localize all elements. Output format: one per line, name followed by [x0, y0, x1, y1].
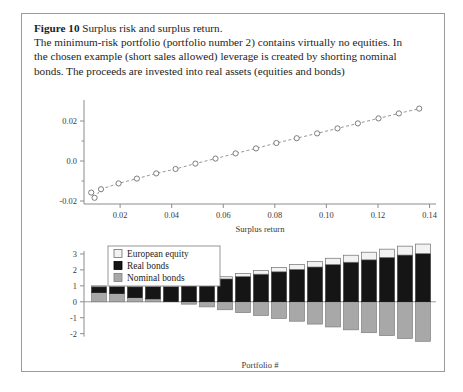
legend-label: European equity — [127, 249, 189, 259]
bar-group — [362, 252, 377, 332]
scatter-data-point — [376, 116, 381, 121]
scatter-y-tick-label: 0.0 — [67, 157, 77, 166]
bar-group — [416, 244, 431, 341]
legend-swatch — [114, 262, 122, 270]
bar-group — [146, 286, 161, 302]
legend-label: Real bonds — [127, 261, 169, 271]
bar-segment-european-equity — [308, 261, 323, 267]
bar-segment-european-equity — [254, 271, 269, 275]
bar-group — [128, 286, 143, 302]
bar-segment-real-bonds — [380, 257, 395, 301]
legend-swatch — [114, 250, 122, 258]
bar-segment-nominal-bonds — [290, 302, 305, 321]
bar-segment-european-equity — [326, 258, 341, 264]
bar-segment-nominal-bonds — [128, 298, 143, 302]
scatter-data-point — [253, 146, 258, 151]
bar-segment-real-bonds — [416, 254, 431, 302]
bar-segment-real-bonds — [128, 287, 143, 298]
caption-line-3: bonds. The proceeds are invested into re… — [34, 64, 434, 78]
scatter-data-point — [193, 161, 198, 166]
scatter-data-point — [315, 131, 320, 136]
bar-plot-svg: -2-10123European equityReal bondsNominal… — [22, 236, 446, 372]
bar-y-tick-label: 3 — [73, 250, 77, 259]
bar-segment-european-equity — [272, 268, 287, 272]
bar-group — [290, 264, 305, 321]
bar-segment-nominal-bonds — [236, 302, 251, 313]
legend-swatch — [114, 274, 122, 282]
bar-segment-nominal-bonds — [398, 302, 413, 339]
figure-frame: Figure 10 Surplus risk and surplus retur… — [21, 13, 445, 372]
scatter-x-tick-label: 0.04 — [164, 211, 179, 220]
scatter-data-point — [213, 156, 218, 161]
scatter-data-point — [134, 176, 139, 181]
scatter-chart: -0.020.00.020.020.040.060.080.100.120.14… — [22, 92, 446, 240]
scatter-x-tick-label: 0.02 — [113, 211, 128, 220]
bar-group — [398, 246, 413, 338]
scatter-data-point — [417, 106, 422, 111]
bar-segment-real-bonds — [362, 260, 377, 302]
bar-group — [164, 286, 179, 302]
scatter-data-point — [274, 140, 279, 145]
legend-label: Nominal bonds — [127, 273, 185, 283]
bar-group — [326, 258, 341, 327]
bar-segment-real-bonds — [344, 262, 359, 302]
bar-segment-nominal-bonds — [200, 302, 215, 307]
bar-group — [272, 268, 287, 319]
bar-y-tick-label: -2 — [70, 330, 77, 339]
scatter-x-tick-label: 0.10 — [319, 211, 334, 220]
scatter-data-point — [355, 121, 360, 126]
bar-segment-european-equity — [290, 264, 305, 269]
bar-segment-nominal-bonds — [380, 302, 395, 336]
bar-group — [308, 261, 323, 324]
scatter-data-point — [154, 171, 159, 176]
bar-segment-european-equity — [380, 249, 395, 257]
bar-segment-nominal-bonds — [308, 302, 323, 324]
bar-segment-nominal-bonds — [344, 302, 359, 330]
scatter-data-point — [92, 195, 97, 200]
bar-segment-real-bonds — [326, 265, 341, 302]
bar-segment-real-bonds — [92, 287, 107, 293]
bar-y-tick-label: 2 — [73, 266, 77, 275]
bar-group — [344, 255, 359, 330]
bar-segment-european-equity — [362, 252, 377, 260]
bar-segment-nominal-bonds — [416, 302, 431, 342]
bar-group — [110, 286, 125, 302]
bar-segment-nominal-bonds — [146, 299, 161, 302]
scatter-data-point — [89, 190, 94, 195]
bar-y-tick-label: -1 — [70, 314, 77, 323]
bar-segment-real-bonds — [164, 287, 179, 302]
bar-segment-real-bonds — [182, 284, 197, 302]
scatter-data-point — [335, 126, 340, 131]
bar-segment-nominal-bonds — [362, 302, 377, 333]
scatter-y-tick-label: 0.02 — [62, 117, 77, 126]
scatter-x-tick-label: 0.12 — [371, 211, 386, 220]
bar-group — [254, 271, 269, 316]
caption-line-2: the chosen example (short sales allowed)… — [34, 49, 434, 63]
bar-segment-european-equity — [236, 274, 251, 277]
scatter-x-tick-label: 0.08 — [267, 211, 282, 220]
bar-x-axis-title: Portfolio # — [241, 360, 279, 370]
scatter-x-tick-label: 0.14 — [422, 211, 437, 220]
scatter-data-point — [116, 181, 121, 186]
bar-segment-real-bonds — [110, 286, 125, 293]
bar-group — [92, 286, 107, 302]
bar-y-tick-label: 0 — [73, 298, 77, 307]
bar-segment-real-bonds — [272, 272, 287, 302]
bar-segment-real-bonds — [398, 255, 413, 302]
scatter-plot-svg: -0.020.00.020.020.040.060.080.100.120.14… — [22, 92, 446, 240]
bar-segment-european-equity — [92, 286, 107, 287]
bar-segment-real-bonds — [146, 286, 161, 298]
bar-segment-european-equity — [344, 255, 359, 262]
scatter-x-tick-label: 0.06 — [216, 211, 231, 220]
bar-y-tick-label: 1 — [73, 282, 77, 291]
scatter-data-point — [294, 136, 299, 141]
bar-segment-nominal-bonds — [272, 302, 287, 319]
bar-segment-real-bonds — [290, 269, 305, 301]
bar-segment-nominal-bonds — [92, 293, 107, 302]
bar-segment-real-bonds — [236, 277, 251, 302]
bar-segment-european-equity — [416, 244, 431, 254]
figure-title: Surplus risk and surplus return. — [82, 22, 222, 34]
bar-segment-real-bonds — [254, 274, 269, 302]
bar-segment-nominal-bonds — [182, 302, 197, 304]
scatter-data-point — [98, 187, 103, 192]
